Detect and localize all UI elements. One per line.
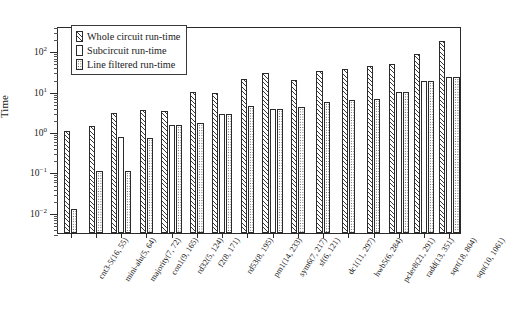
y-axis-minor-tick bbox=[54, 59, 58, 60]
y-axis-minor-tick bbox=[54, 97, 58, 98]
y-axis-minor-tick bbox=[54, 175, 58, 176]
y-axis-tick bbox=[50, 93, 58, 94]
y-axis-tick-label: 102 bbox=[34, 45, 47, 57]
y-axis-minor-tick bbox=[54, 99, 58, 100]
y-axis-minor-tick bbox=[54, 230, 58, 231]
y-axis-minor-tick bbox=[54, 73, 58, 74]
y-axis-minor-tick bbox=[54, 223, 58, 224]
y-axis-minor-tick bbox=[54, 61, 58, 62]
bar bbox=[439, 41, 445, 233]
y-axis-tick-label: 100 bbox=[34, 126, 47, 138]
legend-item: Whole circuit run-time bbox=[76, 29, 180, 43]
y-axis-minor-tick bbox=[54, 182, 58, 183]
y-axis-minor-tick bbox=[54, 180, 58, 181]
y-axis-minor-tick bbox=[54, 102, 58, 103]
x-axis-tick-label: dc1(11, 297) bbox=[346, 236, 376, 276]
x-axis-tick-label: hwb5(6, 284) bbox=[373, 236, 405, 278]
y-axis-tick bbox=[50, 214, 58, 215]
y-axis-minor-tick bbox=[54, 33, 58, 34]
y-axis-minor-tick bbox=[54, 139, 58, 140]
y-axis-minor-tick bbox=[54, 95, 58, 96]
y-axis-minor-tick bbox=[54, 218, 58, 219]
y-axis-minor-tick bbox=[54, 190, 58, 191]
x-axis-tick-label: rd53(8, 195) bbox=[245, 236, 275, 276]
y-axis-tick bbox=[50, 173, 58, 174]
y-axis-tick bbox=[50, 133, 58, 134]
legend-label: Whole circuit run-time bbox=[87, 31, 180, 42]
y-axis-minor-tick bbox=[54, 195, 58, 196]
y-axis-minor-tick bbox=[54, 105, 58, 106]
y-axis-minor-tick bbox=[54, 216, 58, 217]
y-axis-minor-tick bbox=[54, 81, 58, 82]
y-axis-minor-tick bbox=[54, 161, 58, 162]
y-axis-minor-tick bbox=[54, 135, 58, 136]
legend-swatch bbox=[76, 45, 83, 56]
y-axis-minor-tick bbox=[54, 28, 58, 29]
legend-swatch bbox=[76, 59, 83, 70]
y-axis-minor-tick bbox=[54, 114, 58, 115]
bar bbox=[453, 77, 459, 233]
y-axis-minor-tick bbox=[54, 149, 58, 150]
y-axis-tick bbox=[50, 52, 58, 53]
legend-swatch bbox=[76, 31, 83, 42]
y-axis-minor-tick bbox=[54, 220, 58, 221]
y-axis-tick-label: 101 bbox=[34, 86, 47, 98]
y-axis-tick-label: 10−2 bbox=[30, 207, 47, 219]
legend-item: Subcircuit run-time bbox=[76, 43, 180, 57]
y-axis-minor-tick bbox=[54, 68, 58, 69]
x-axis-tick-labels: cnt3-5(16, 55)mini-alu(5, 64)majority(7,… bbox=[57, 236, 461, 317]
y-axis-tick-labels: 10210110010−110−2 bbox=[0, 27, 55, 234]
legend-item: Line filtered run-time bbox=[76, 57, 180, 71]
y-axis-minor-tick bbox=[54, 40, 58, 41]
y-axis-minor-tick bbox=[54, 177, 58, 178]
y-axis-minor-tick bbox=[54, 137, 58, 138]
y-axis-minor-tick bbox=[54, 121, 58, 122]
y-axis-minor-tick bbox=[54, 56, 58, 57]
y-axis-minor-tick bbox=[54, 109, 58, 110]
bar bbox=[446, 77, 452, 233]
y-axis-tick-label: 10−1 bbox=[30, 166, 47, 178]
y-axis-minor-tick bbox=[54, 186, 58, 187]
y-axis-minor-tick bbox=[54, 154, 58, 155]
x-axis-tick-label: sqn(10, 1061) bbox=[474, 236, 507, 280]
y-axis-minor-tick bbox=[54, 202, 58, 203]
y-axis-minor-tick bbox=[54, 64, 58, 65]
legend-label: Subcircuit run-time bbox=[87, 45, 167, 56]
y-axis-minor-tick bbox=[54, 226, 58, 227]
legend-label: Line filtered run-time bbox=[87, 59, 175, 70]
y-axis-minor-tick bbox=[54, 145, 58, 146]
y-axis-minor-tick bbox=[54, 54, 58, 55]
chart-legend: Whole circuit run-timeSubcircuit run-tim… bbox=[71, 25, 187, 75]
y-axis-minor-tick bbox=[54, 142, 58, 143]
